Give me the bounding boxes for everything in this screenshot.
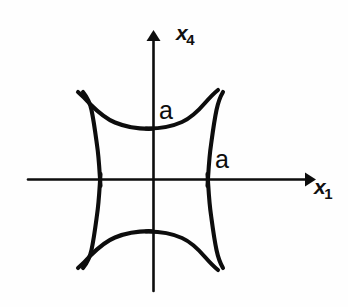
x1-intercept-label: a — [215, 147, 229, 172]
astroid-figure-svg — [0, 0, 348, 307]
astroid-arc-lower-right — [146, 231, 218, 270]
astroid-arc-left-lower — [83, 174, 101, 268]
x1-axis — [28, 173, 316, 187]
figure-container: x4 x1 a a — [0, 0, 348, 307]
x4-axis-label: x4 — [176, 22, 196, 43]
up-arrow-icon — [147, 30, 161, 41]
astroid-arc-upper-right — [146, 90, 218, 129]
x4-axis-label-subscript: 4 — [186, 31, 194, 48]
x1-axis-label: x1 — [314, 176, 334, 197]
x4-intercept-label: a — [159, 98, 173, 123]
x1-axis-label-subscript: 1 — [324, 185, 332, 202]
astroid-arc-right-lower — [208, 174, 224, 268]
x4-axis — [147, 30, 161, 291]
astroid-arc-left-upper — [83, 92, 101, 186]
